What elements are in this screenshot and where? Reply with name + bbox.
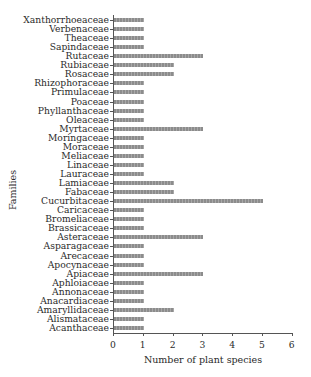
y-tick [110, 156, 113, 157]
y-tick [110, 210, 113, 211]
bar [114, 181, 174, 185]
bar [114, 263, 144, 267]
y-tick [110, 228, 113, 229]
x-tick-label: 6 [289, 339, 295, 350]
x-tick [202, 333, 203, 336]
bar [114, 90, 144, 94]
y-tick [110, 219, 113, 220]
y-tick [110, 102, 113, 103]
y-tick [110, 56, 113, 57]
y-axis-title: Families [7, 170, 18, 210]
y-tick [110, 246, 113, 247]
bar [114, 109, 144, 113]
y-tick [110, 20, 113, 21]
x-tick [262, 333, 263, 336]
y-tick [110, 147, 113, 148]
bar [114, 54, 203, 58]
y-tick-label: Acanthaceae [49, 323, 109, 332]
bar [114, 18, 144, 22]
bar [114, 272, 203, 276]
y-tick [110, 292, 113, 293]
x-tick [173, 333, 174, 336]
bar [114, 45, 144, 49]
y-tick [110, 38, 113, 39]
bar [114, 81, 144, 85]
x-tick-label: 2 [170, 339, 176, 350]
x-tick-label: 4 [229, 339, 235, 350]
y-tick [110, 29, 113, 30]
bar [114, 208, 144, 212]
y-tick [110, 183, 113, 184]
bar [114, 72, 174, 76]
bar [114, 290, 144, 294]
y-tick [110, 319, 113, 320]
y-tick [110, 174, 113, 175]
bar [114, 172, 144, 176]
y-tick [110, 237, 113, 238]
y-tick [110, 192, 113, 193]
bar [114, 127, 203, 131]
bar [114, 226, 144, 230]
x-tick [292, 333, 293, 336]
bar [114, 235, 203, 239]
bar [114, 190, 174, 194]
x-tick-label: 0 [110, 339, 116, 350]
bar [114, 244, 144, 248]
y-tick [110, 65, 113, 66]
y-tick [110, 265, 113, 266]
x-tick [232, 333, 233, 336]
bar [114, 199, 263, 203]
y-tick [110, 138, 113, 139]
y-tick [110, 283, 113, 284]
x-tick-label: 5 [259, 339, 265, 350]
x-tick [143, 333, 144, 336]
bar [114, 27, 144, 31]
bar [114, 63, 174, 67]
y-tick [110, 310, 113, 311]
y-tick [110, 111, 113, 112]
bar [114, 299, 144, 303]
y-tick [110, 301, 113, 302]
bar [114, 154, 144, 158]
bar [114, 36, 144, 40]
y-tick [110, 129, 113, 130]
x-axis-title: Number of plant species [144, 354, 262, 365]
bar [114, 326, 144, 330]
y-tick [110, 83, 113, 84]
y-tick [110, 165, 113, 166]
bar [114, 317, 144, 321]
bar [114, 100, 144, 104]
y-tick [110, 74, 113, 75]
bar [114, 281, 144, 285]
bar [114, 308, 174, 312]
y-tick [110, 201, 113, 202]
bar-chart: XanthorrhoeaceaeVerbenaceaeTheaceaeSapin… [0, 0, 311, 377]
bar [114, 145, 144, 149]
bar [114, 163, 144, 167]
x-tick-label: 1 [140, 339, 146, 350]
bar [114, 118, 144, 122]
y-tick [110, 120, 113, 121]
bar [114, 254, 144, 258]
y-tick [110, 47, 113, 48]
y-tick [110, 328, 113, 329]
bar [114, 217, 144, 221]
x-tick-label: 3 [199, 339, 205, 350]
bar [114, 136, 144, 140]
x-tick [113, 333, 114, 336]
y-tick [110, 274, 113, 275]
y-tick [110, 92, 113, 93]
y-tick [110, 256, 113, 257]
